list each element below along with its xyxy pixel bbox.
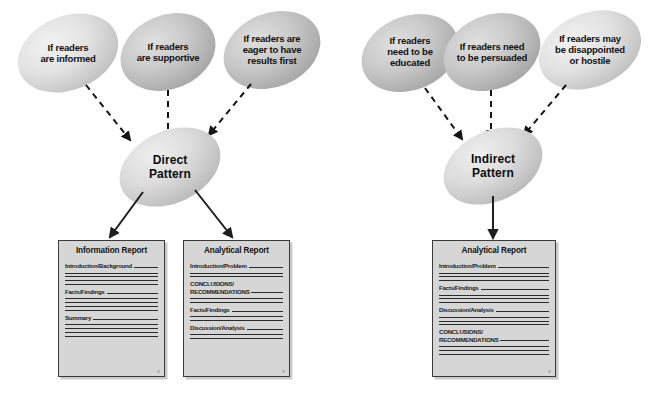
arrow-direct-to-information-report xyxy=(110,192,143,237)
analytical-report-direct-title: Analytical Report xyxy=(184,247,289,255)
rule-lines xyxy=(439,295,549,304)
rule-lines xyxy=(65,298,158,311)
report-section: Discussion/Analysis xyxy=(439,306,549,325)
arrow-eager-to-direct xyxy=(209,84,251,135)
rule-lines xyxy=(190,298,283,303)
report-section: Facts/Findings xyxy=(65,288,158,311)
report-section: CONCLUSIONS/ RECOMMENDATIONS xyxy=(190,280,283,302)
condition-eager-line-2: eager to have xyxy=(243,44,302,55)
analytical-report-indirect-title: Analytical Report xyxy=(433,247,555,255)
condition-hostile: If readers may be disappointed or hostil… xyxy=(527,0,653,104)
leader-line xyxy=(107,293,159,294)
direct-pattern-line-2: Pattern xyxy=(149,167,191,181)
condition-persuaded-line-2: to be persuaded xyxy=(457,52,528,63)
condition-educated-line-1: If readers xyxy=(390,35,431,46)
indirect-pattern-line-1: Indirect xyxy=(471,152,515,166)
page-corner-mark xyxy=(548,370,551,373)
indirect-pattern-line-2: Pattern xyxy=(472,166,514,180)
information-report-title: Information Report xyxy=(59,247,164,255)
section-label: Facts/Findings xyxy=(190,306,230,313)
information-report: Information Report Introduction/Backgrou… xyxy=(58,240,165,377)
leader-line xyxy=(498,267,549,268)
arrow-hostile-to-indirect xyxy=(524,85,566,135)
section-label: Introduction/Background xyxy=(65,262,132,269)
rule-lines xyxy=(190,316,283,321)
report-section: Discussion/Analysis xyxy=(190,324,283,339)
leader-line xyxy=(496,311,549,312)
leader-line xyxy=(251,292,283,293)
report-section: CONCLUSIONS/ RECOMMENDATIONS xyxy=(439,328,549,354)
page-corner-mark xyxy=(282,370,285,373)
section-label: CONCLUSIONS/ RECOMMENDATIONS xyxy=(190,280,249,294)
report-section: Facts/Findings xyxy=(439,284,549,303)
arrow-educated-to-indirect xyxy=(425,88,462,139)
leader-line xyxy=(249,267,283,268)
analytical-report-indirect-sections: Introduction/Problem Facts/Findings xyxy=(433,262,555,354)
leader-line xyxy=(247,329,283,330)
analytical-report-direct-sections: Introduction/Problem CONCLUSIONS/ RECOMM… xyxy=(184,262,289,339)
analytical-report-indirect: Analytical Report Introduction/Problem F… xyxy=(432,240,556,377)
arrow-direct-to-analytical-report xyxy=(195,190,232,237)
analytical-report-direct: Analytical Report Introduction/Problem C… xyxy=(183,240,290,377)
condition-educated-line-2: need to be xyxy=(387,46,433,57)
direct-pattern-line-1: Direct xyxy=(153,153,188,167)
report-section: Introduction/Problem xyxy=(439,262,549,281)
rule-lines xyxy=(439,317,549,326)
rule-lines xyxy=(190,334,283,339)
leader-line xyxy=(232,311,284,312)
condition-informed: If readers are informed xyxy=(6,0,130,107)
condition-persuaded: If readers need to be persuaded xyxy=(432,0,552,105)
section-label: CONCLUSIONS/ RECOMMENDATIONS xyxy=(439,328,498,342)
diagram-canvas: If readers are informed If readers are s… xyxy=(0,0,661,395)
leader-line xyxy=(500,340,549,341)
section-label: Discussion/Analysis xyxy=(439,306,494,313)
rule-lines xyxy=(439,346,549,355)
section-label: Introduction/Problem xyxy=(439,262,496,269)
section-label: Facts/Findings xyxy=(439,284,479,291)
condition-eager: If readers are eager to have results fir… xyxy=(212,0,332,103)
condition-hostile-line-2: be disappointed xyxy=(555,44,625,55)
report-section: Facts/Findings xyxy=(190,306,283,321)
report-section: Introduction/Problem xyxy=(190,262,283,277)
rule-lines xyxy=(65,324,158,337)
condition-informed-line-1: If readers xyxy=(48,42,89,53)
page-corner-mark xyxy=(157,370,160,373)
condition-supportive-line-2: are supportive xyxy=(137,52,200,63)
condition-supportive: If readers are supportive xyxy=(109,0,228,105)
section-label: Facts/Findings xyxy=(65,288,105,295)
section-label: Summary xyxy=(65,314,91,321)
condition-informed-line-2: are informed xyxy=(40,53,96,64)
condition-educated-line-3: educated xyxy=(390,57,431,68)
leader-line xyxy=(93,319,158,320)
condition-hostile-line-3: or hostile xyxy=(570,55,611,66)
information-report-sections: Introduction/Background Facts/Findings xyxy=(59,262,164,337)
leader-line xyxy=(481,289,550,290)
condition-eager-line-3: results first xyxy=(247,55,297,66)
rule-lines xyxy=(65,273,158,286)
leader-line xyxy=(134,267,158,268)
condition-persuaded-line-1: If readers need xyxy=(460,41,525,52)
condition-supportive-line-1: If readers xyxy=(148,41,189,52)
section-label: Discussion/Analysis xyxy=(190,324,245,331)
rule-lines xyxy=(439,273,549,282)
report-section: Introduction/Background xyxy=(65,262,158,285)
report-section: Summary xyxy=(65,314,158,337)
condition-eager-line-1: If readers are xyxy=(244,33,301,44)
condition-hostile-line-1: If readers may xyxy=(559,33,622,44)
rule-lines xyxy=(190,273,283,278)
arrow-informed-to-direct xyxy=(86,85,130,140)
section-label: Introduction/Problem xyxy=(190,262,247,269)
